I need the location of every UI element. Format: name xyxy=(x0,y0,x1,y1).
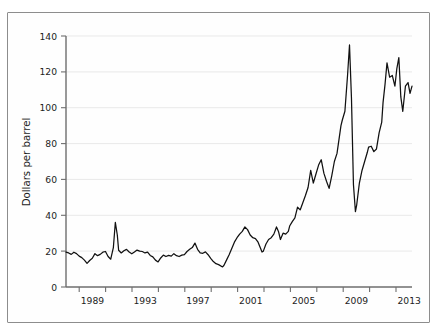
gridlines xyxy=(66,36,412,251)
x-tick-label-1993: 1993 xyxy=(134,295,158,306)
y-axis: 140 120 100 80 60 40 20 0 Dollars per ba… xyxy=(21,31,66,293)
y-tick-label-120: 120 xyxy=(39,66,57,77)
y-axis-title: Dollars per barrel xyxy=(21,118,32,207)
y-tick-label-20: 20 xyxy=(45,246,57,257)
x-tick-label-2009: 2009 xyxy=(345,295,369,306)
y-tick-label-0: 0 xyxy=(51,282,57,293)
y-tick-label-100: 100 xyxy=(39,102,57,113)
x-axis: 1989 1993 1997 2001 2005 2009 2013 xyxy=(66,287,421,306)
x-tick-label-2013: 2013 xyxy=(398,295,422,306)
x-tick-label-1997: 1997 xyxy=(186,295,210,306)
price-series-line xyxy=(66,45,412,267)
x-tick-label-2005: 2005 xyxy=(292,295,316,306)
y-tick-label-80: 80 xyxy=(45,138,57,149)
x-tick-label-2001: 2001 xyxy=(239,295,262,306)
y-tick-label-140: 140 xyxy=(39,31,57,42)
y-tick-label-60: 60 xyxy=(45,174,57,185)
page-background: 140 120 100 80 60 40 20 0 Dollars per ba… xyxy=(0,0,446,328)
y-tick-label-40: 40 xyxy=(45,210,57,221)
x-tick-label-1989: 1989 xyxy=(81,295,105,306)
oil-price-chart: 140 120 100 80 60 40 20 0 Dollars per ba… xyxy=(0,0,446,328)
